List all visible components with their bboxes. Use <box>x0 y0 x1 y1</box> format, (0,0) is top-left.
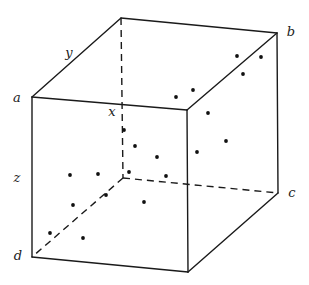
scatter-point <box>133 144 137 148</box>
scatter-point <box>127 170 131 174</box>
scatter-point <box>48 231 52 235</box>
cube-edge <box>188 193 278 272</box>
scatter-point <box>96 172 100 176</box>
scatter-point <box>191 88 195 92</box>
scatter-point <box>71 203 75 207</box>
hidden-edge <box>123 178 278 193</box>
scatter-point <box>195 150 199 154</box>
vertex-label-d: d <box>14 249 22 262</box>
cube-edge <box>187 33 277 110</box>
cube-edge <box>32 257 188 272</box>
axis-label-x: x <box>108 105 115 118</box>
scatter-point <box>241 72 245 76</box>
vertex-label-b: b <box>287 25 295 38</box>
scatter-point <box>81 236 85 240</box>
cube-edge <box>32 18 121 97</box>
scatter-point <box>164 174 168 178</box>
scatter-point <box>142 200 146 204</box>
scatter-point <box>235 54 239 58</box>
hidden-edge <box>32 178 123 257</box>
scatter-point <box>206 111 210 115</box>
scatter-point <box>68 173 72 177</box>
scatter-point <box>259 55 263 59</box>
cube-edge <box>121 18 277 33</box>
axis-label-z: z <box>14 171 21 184</box>
data-points <box>48 54 263 240</box>
cube-edge <box>187 110 188 272</box>
cube-edge <box>277 33 278 193</box>
scatter-point <box>104 193 108 197</box>
cube-scatter-figure <box>0 0 309 285</box>
vertex-label-c: c <box>288 186 295 199</box>
vertex-label-a: a <box>13 91 21 104</box>
scatter-point <box>155 155 159 159</box>
axis-label-y: y <box>65 46 72 59</box>
scatter-point <box>224 139 228 143</box>
hidden-edge <box>121 18 123 178</box>
scatter-point <box>174 95 178 99</box>
scatter-point <box>122 128 126 132</box>
cube-diagram: a b c d x y z <box>0 0 309 285</box>
